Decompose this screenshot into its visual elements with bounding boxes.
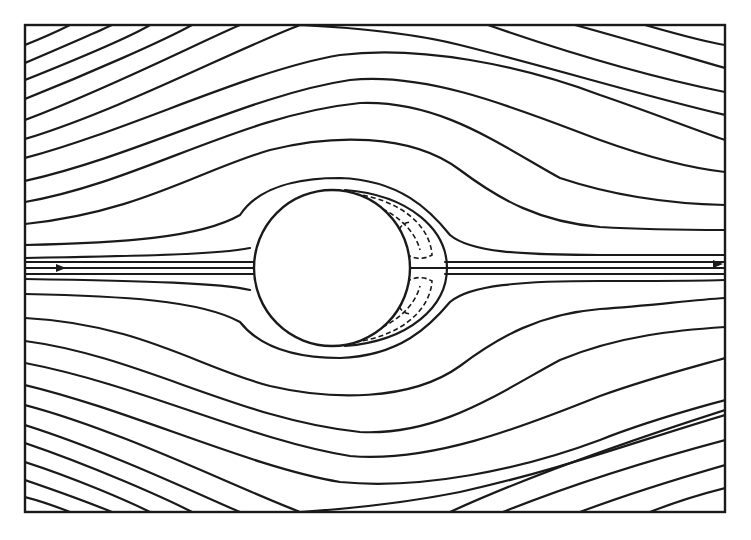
streamline-diagram <box>0 0 751 540</box>
inflow-arrow-icon <box>56 264 66 272</box>
cylinder <box>254 190 410 346</box>
